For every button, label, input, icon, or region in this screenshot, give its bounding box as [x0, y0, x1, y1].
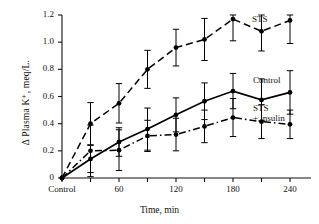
y-tick-label: 1.0 [24, 36, 54, 46]
data-point-marker [145, 67, 150, 72]
axes [58, 15, 311, 182]
data-point-marker [174, 132, 179, 137]
x-axis-label-text: Time, min [140, 205, 179, 215]
series-label-sts-insulin: STS + insulin [253, 104, 285, 123]
data-point-marker [202, 124, 207, 129]
chart-figure: Δ Plasma K⁺, meq/L. Time, min 00.20.40.6… [0, 0, 319, 224]
data-point-marker [231, 89, 236, 94]
y-tick-label: 0.8 [24, 63, 54, 73]
series-label-sts: STS [252, 15, 268, 25]
y-tick-label: 0 [24, 172, 54, 182]
y-tick-label: 0.6 [24, 91, 54, 101]
y-axis-ticks [58, 15, 62, 178]
data-point-marker [60, 176, 65, 181]
data-point-marker [117, 101, 122, 106]
series-label-control: Control [253, 76, 281, 86]
x-tick-label: 240 [268, 184, 312, 194]
x-tick-label: 180 [211, 184, 255, 194]
data-point-marker [202, 37, 207, 42]
data-series-group [60, 15, 294, 180]
data-point-marker [288, 122, 293, 127]
y-tick-label: 0.4 [24, 118, 54, 128]
x-tick-label: Control [40, 184, 84, 194]
data-point-marker [288, 18, 293, 23]
y-tick-label: 0.2 [24, 145, 54, 155]
x-tick-label: 60 [97, 184, 141, 194]
data-point-marker [231, 17, 236, 22]
y-tick-label: 1.2 [24, 9, 54, 19]
data-point-marker [117, 148, 122, 153]
x-axis-ticks [62, 178, 290, 182]
x-axis-label: Time, min [0, 205, 319, 215]
data-point-marker [288, 90, 293, 95]
data-point-marker [259, 97, 264, 102]
data-point-marker [174, 45, 179, 50]
x-tick-label: 120 [154, 184, 198, 194]
data-point-marker [145, 133, 150, 138]
data-point-marker [202, 99, 207, 104]
data-point-marker [174, 112, 179, 117]
data-point-marker [88, 148, 93, 153]
data-point-marker [259, 29, 264, 34]
data-point-marker [231, 115, 236, 120]
